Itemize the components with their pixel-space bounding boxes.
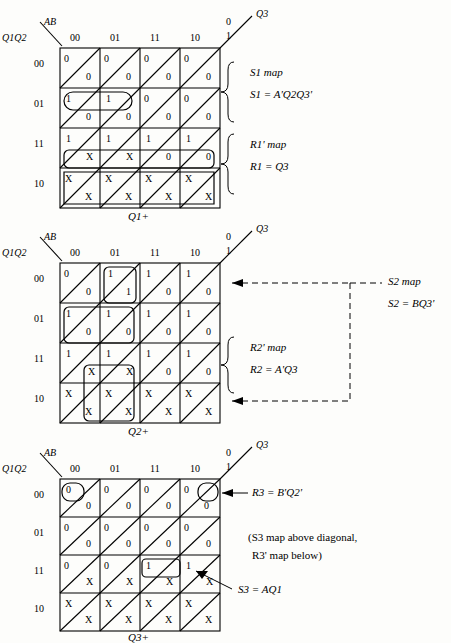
map1-annotation-r1map: R1' map bbox=[250, 138, 286, 150]
kmap-block-3: AB Q1Q2 Q3 0 1 00 01 11 10 00 01 11 10 0… bbox=[0, 431, 451, 639]
cell-l: 0 bbox=[206, 151, 211, 162]
cell-l: 0 bbox=[126, 71, 131, 82]
map1-row-header-0: 00 bbox=[34, 58, 44, 69]
cell-u: 1 bbox=[66, 93, 71, 104]
cell-l: X bbox=[126, 151, 133, 162]
cell-l: X bbox=[86, 576, 93, 587]
cell-u: 1 bbox=[106, 308, 111, 319]
cell-l: X bbox=[85, 614, 92, 625]
cell-l: 0 bbox=[206, 286, 211, 297]
cell-l: 0 bbox=[206, 538, 211, 549]
cell-u: 0 bbox=[144, 522, 149, 533]
cell-l: X bbox=[88, 366, 95, 377]
map1-side-var: Q1Q2 bbox=[2, 32, 26, 43]
map3-col-header-2: 11 bbox=[150, 463, 160, 474]
cell-l: X bbox=[85, 191, 92, 202]
cell-u: 1 bbox=[66, 308, 71, 319]
cell-l: X bbox=[125, 614, 132, 625]
cell-l: 1 bbox=[126, 286, 131, 297]
cell-u: X bbox=[105, 388, 112, 399]
map3-diag-0: 0 bbox=[226, 447, 231, 458]
map3-col-header-3: 10 bbox=[190, 463, 200, 474]
cell-u: 0 bbox=[104, 522, 109, 533]
cell-l: 0 bbox=[166, 500, 171, 511]
map1-annotation-s1eq: S1 = A'Q2Q3' bbox=[250, 88, 312, 100]
cell-l: 0 bbox=[126, 538, 131, 549]
cell-l: 0 bbox=[166, 286, 171, 297]
map3-right-var: Q3 bbox=[256, 439, 268, 450]
cell-u: 0 bbox=[144, 53, 149, 64]
cell-l: 0 bbox=[206, 71, 211, 82]
cell-u: 1 bbox=[106, 133, 111, 144]
cell-u: 1 bbox=[106, 93, 111, 104]
cell-u: 1 bbox=[66, 133, 71, 144]
kmap-block-2: AB Q1Q2 Q3 0 1 00 01 11 10 00 01 11 10 0… bbox=[0, 215, 451, 431]
cell-l: 0 bbox=[86, 111, 91, 122]
cell-u: 1 bbox=[146, 308, 151, 319]
cell-l: X bbox=[206, 576, 213, 587]
cell-l: 0 bbox=[166, 366, 171, 377]
cell-u: X bbox=[145, 173, 152, 184]
cell-u: 1 bbox=[146, 348, 151, 359]
map3-top-var: AB bbox=[44, 447, 56, 458]
map3-row-header-1: 01 bbox=[34, 527, 44, 538]
cell-u: X bbox=[65, 388, 72, 399]
cell-u: X bbox=[145, 598, 152, 609]
cell-l: 0 bbox=[206, 366, 211, 377]
cell-u: 0 bbox=[144, 484, 149, 495]
cell-u: 1 bbox=[186, 560, 191, 571]
cell-l: X bbox=[126, 366, 133, 377]
map1-col-header-1: 01 bbox=[110, 32, 120, 43]
cell-u: X bbox=[105, 598, 112, 609]
cell-l: 0 bbox=[166, 71, 171, 82]
cell-u: 0 bbox=[64, 53, 69, 64]
map3-annotation-r3eq: R3 = B'Q2' bbox=[252, 486, 302, 498]
map3-row-header-0: 00 bbox=[34, 489, 44, 500]
cell-l: X bbox=[205, 406, 212, 417]
map1-row-header-3: 10 bbox=[34, 178, 44, 189]
map2-annotation-r2map: R2' map bbox=[250, 341, 286, 353]
cell-u: 0 bbox=[104, 53, 109, 64]
map2-top-var: AB bbox=[44, 231, 56, 242]
cell-l: 0 bbox=[126, 111, 131, 122]
kmap-block-1: AB Q1Q2 Q3 0 1 00 01 11 10 00 01 11 10 0… bbox=[0, 0, 451, 215]
cell-l: 0 bbox=[166, 151, 171, 162]
cell-l: 0 bbox=[166, 111, 171, 122]
map3-annotation-note-1: (S3 map above diagonal, bbox=[248, 531, 357, 543]
cell-l: X bbox=[166, 576, 173, 587]
cell-l: X bbox=[125, 191, 132, 202]
map3-col-header-0: 00 bbox=[70, 463, 80, 474]
cell-u: 0 bbox=[184, 53, 189, 64]
cell-l: 0 bbox=[204, 500, 209, 511]
cell-u: 1 bbox=[146, 133, 151, 144]
map3-row-header-3: 10 bbox=[34, 603, 44, 614]
cell-u: X bbox=[65, 598, 72, 609]
map3-annotation-note-2: R3' map below) bbox=[252, 549, 322, 561]
cell-l: 0 bbox=[86, 326, 91, 337]
map3-annotation-s3eq: S3 = AQ1 bbox=[238, 583, 282, 595]
cell-u: X bbox=[185, 388, 192, 399]
map1-col-header-0: 00 bbox=[70, 32, 80, 43]
map1-annotation-r1eq: R1 = Q3 bbox=[250, 160, 289, 172]
cell-l: X bbox=[205, 191, 212, 202]
cell-l: 0 bbox=[86, 538, 91, 549]
cell-u: 0 bbox=[184, 93, 189, 104]
cell-u: 1 bbox=[186, 268, 191, 279]
cell-u: 0 bbox=[144, 93, 149, 104]
cell-l: 0 bbox=[86, 71, 91, 82]
map1-row-header-2: 11 bbox=[34, 138, 44, 149]
map3-side-var: Q1Q2 bbox=[2, 463, 26, 474]
cell-l: 0 bbox=[166, 326, 171, 337]
cell-u: 0 bbox=[184, 484, 189, 495]
map2-col-header-0: 00 bbox=[70, 247, 80, 258]
map2-annotation-r2eq: R2 = A'Q3 bbox=[250, 363, 297, 375]
map1-right-var: Q3 bbox=[256, 8, 268, 19]
cell-u: X bbox=[185, 598, 192, 609]
map1-col-header-2: 11 bbox=[150, 32, 160, 43]
cell-l: X bbox=[205, 614, 212, 625]
cell-l: X bbox=[85, 406, 92, 417]
map3-row-header-2: 11 bbox=[34, 565, 44, 576]
map2-annotation-s2eq: S2 = BQ3' bbox=[388, 297, 434, 309]
cell-u: 0 bbox=[184, 522, 189, 533]
cell-u: 1 bbox=[106, 348, 111, 359]
